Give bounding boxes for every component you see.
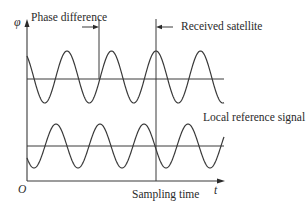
local-reference-label: Local reference signal (203, 112, 305, 124)
received-satellite-label: Received satellite (181, 21, 262, 33)
x-axis-arrow-icon (217, 179, 225, 184)
x-axis-label: t (214, 185, 217, 197)
received-satellite-arrowhead-icon (156, 25, 162, 29)
received-satellite-wave (27, 51, 224, 103)
phase-difference-arrowhead-icon (93, 25, 99, 29)
y-axis-label: φ (14, 16, 21, 28)
y-axis-arrow-icon (25, 19, 30, 27)
sampling-time-label: Sampling time (132, 189, 199, 201)
phase-difference-label: Phase difference (31, 12, 107, 24)
origin-label: O (18, 184, 26, 196)
axes (27, 26, 218, 181)
